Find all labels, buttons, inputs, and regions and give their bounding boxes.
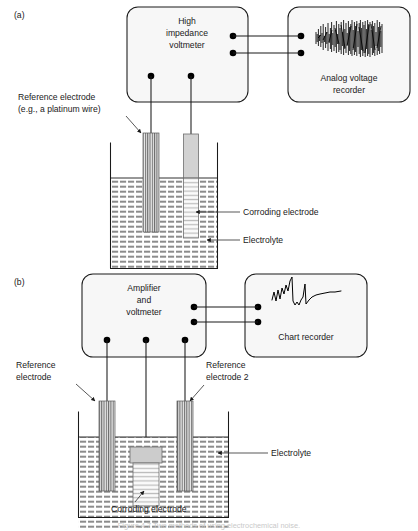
amplifier-and-voltmeter-box[interactable]: Amplifier and voltmeter — [82, 274, 206, 357]
cell-a — [111, 133, 218, 269]
panel-b-label: (b) — [14, 277, 25, 287]
figure-caption: Figure 4.7 Two methods of using electroc… — [118, 521, 300, 530]
corroding-electrode-b-cap[interactable] — [130, 447, 162, 463]
electrolyte-fill-a — [111, 178, 218, 268]
label-reference-electrode-2-b-line2: electrode 2 — [206, 372, 249, 382]
high-impedance-voltmeter-box[interactable]: High impedance voltmeter — [127, 7, 248, 102]
label-electrolyte-b: Electrolyte — [271, 448, 311, 458]
label-reference-electrode-1-b-line2: electrode — [16, 372, 52, 382]
voltmeter-label-line2: impedance — [166, 28, 208, 38]
leader-reference-electrode-1-b — [76, 384, 95, 401]
label-reference-electrode-a-line2: (e.g., a platinum wire) — [18, 104, 101, 114]
label-reference-electrode-2-b-line1: Reference — [206, 360, 246, 370]
amplifier-label-line2: and — [137, 295, 152, 305]
corroding-electrode-a-above[interactable] — [184, 134, 199, 178]
reference-electrode-a[interactable] — [143, 133, 159, 232]
amplifier-label-line1: Amplifier — [127, 283, 161, 293]
analog-voltage-recorder-box[interactable]: Analog voltage recorder — [288, 7, 410, 102]
panel-b: (b) Amplifier and voltmeter Chart record… — [14, 274, 367, 528]
label-reference-electrode-1-b-line1: Reference — [16, 360, 56, 370]
panel-a-label: (a) — [14, 10, 25, 20]
leader-reference-electrode-a — [126, 116, 141, 133]
reference-electrode-2-b[interactable] — [177, 401, 193, 491]
reference-electrode-1-b[interactable] — [99, 401, 115, 491]
chart-recorder-label: Chart recorder — [278, 332, 334, 342]
label-reference-electrode-a-line1: Reference electrode — [18, 92, 96, 102]
chart-recorder-box[interactable]: Chart recorder — [245, 274, 367, 357]
label-corroding-electrode-a: Corroding electrode — [243, 207, 319, 217]
recorder-label-line2: recorder — [333, 85, 365, 95]
panel-a: (a) High impedance voltmeter Analog volt… — [14, 7, 410, 269]
voltmeter-label-line3: voltmeter — [169, 40, 204, 50]
electrochemical-noise-diagram: (a) High impedance voltmeter Analog volt… — [0, 0, 418, 531]
label-corroding-electrode-b: Corroding electrode — [111, 504, 187, 514]
leader-reference-electrode-2-b — [190, 385, 204, 401]
voltmeter-label-line1: High — [178, 16, 196, 26]
corroding-electrode-a-submerged[interactable] — [184, 178, 199, 238]
label-electrolyte-a: Electrolyte — [243, 235, 283, 245]
amplifier-label-line3: voltmeter — [126, 307, 161, 317]
recorder-label-line1: Analog voltage — [321, 73, 378, 83]
chart-recorder-box-outline — [245, 274, 367, 357]
figure-root: (a) High impedance voltmeter Analog volt… — [0, 0, 418, 531]
